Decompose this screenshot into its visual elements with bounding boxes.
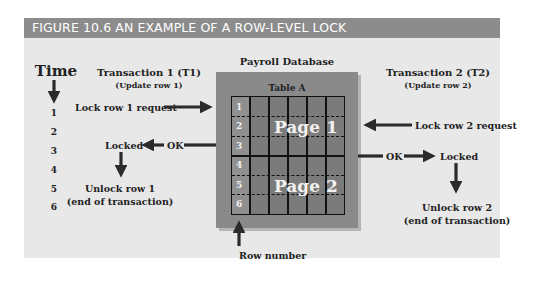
arrows-layer <box>0 0 542 293</box>
